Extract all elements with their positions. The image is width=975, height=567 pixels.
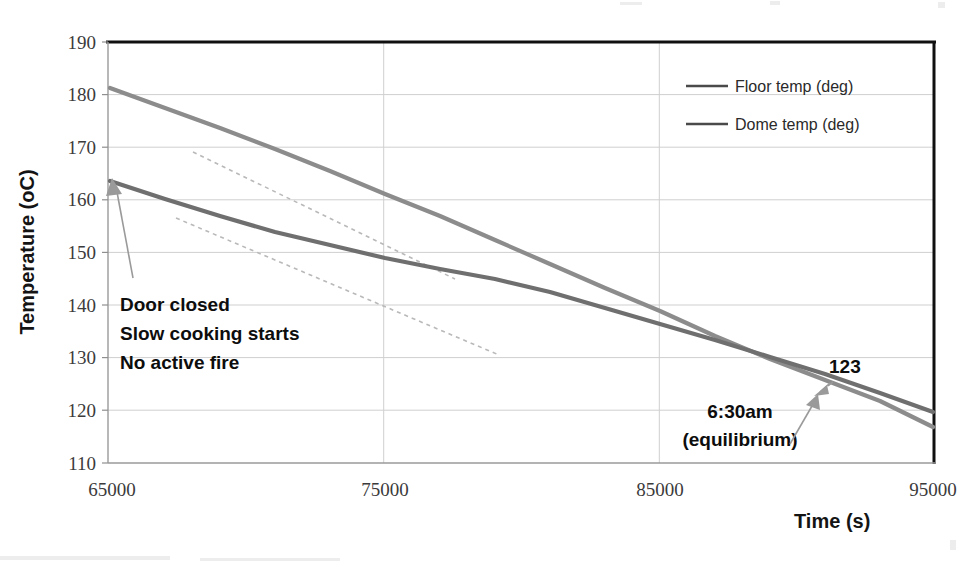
equilibrium-value-label: 123 [829, 356, 861, 377]
y-tick-label: 110 [68, 453, 96, 474]
y-tick-label: 140 [68, 295, 97, 316]
x-axis-title: Time (s) [794, 510, 870, 532]
equilibrium-note-line-2: (equilibrium) [682, 429, 797, 450]
door-note-line-3: No active fire [120, 352, 239, 373]
y-tick-label: 120 [68, 400, 97, 421]
equilibrium-note-line-1: 6:30am [707, 401, 773, 422]
door-note-line-1: Door closed [120, 294, 230, 315]
legend-label-floor-temp: Floor temp (deg) [735, 78, 853, 95]
x-tick-label: 65000 [88, 479, 136, 500]
y-axis-tick-marks [102, 42, 108, 463]
door-note-line-2: Slow cooking starts [120, 323, 299, 344]
x-tick-label: 75000 [361, 479, 409, 500]
y-tick-label: 190 [68, 32, 97, 53]
chart-container: 190 180 170 160 150 140 130 120 110 6500… [0, 0, 975, 567]
x-axis-tick-labels: 65000 75000 85000 95000 [88, 479, 957, 500]
y-tick-label: 150 [68, 242, 97, 263]
temperature-time-line-chart: 190 180 170 160 150 140 130 120 110 6500… [0, 0, 975, 567]
y-tick-label: 170 [68, 137, 97, 158]
y-axis-tick-labels: 190 180 170 160 150 140 130 120 110 [68, 32, 97, 474]
x-tick-label: 85000 [636, 479, 684, 500]
x-tick-label: 95000 [909, 479, 957, 500]
y-tick-label: 130 [68, 347, 97, 368]
legend-label-dome-temp: Dome temp (deg) [735, 116, 860, 133]
y-tick-label: 180 [68, 84, 97, 105]
y-axis-title: Temperature (oC) [16, 169, 38, 334]
y-tick-label: 160 [68, 189, 97, 210]
